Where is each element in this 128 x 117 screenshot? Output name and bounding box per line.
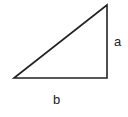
triangle xyxy=(14,5,107,78)
side-a-label: a xyxy=(114,34,122,49)
side-b-label: b xyxy=(53,92,60,107)
right-triangle-diagram: a b xyxy=(0,0,128,117)
